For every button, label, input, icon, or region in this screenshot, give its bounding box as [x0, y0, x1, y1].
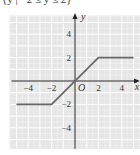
y-tick-label: −4 [61, 123, 71, 133]
y-axis-label: y [80, 11, 86, 22]
x-tick-label: −2 [47, 83, 57, 93]
origin-label: O [78, 82, 85, 93]
y-tick-label: −2 [61, 99, 71, 109]
y-tick-label: 2 [67, 53, 72, 63]
graph: xyO−4−22442−2−4 [0, 0, 140, 155]
x-axis-label: x [134, 81, 140, 92]
x-tick-label: 2 [96, 83, 101, 93]
x-tick-label: 4 [120, 83, 125, 93]
y-tick-label: 4 [67, 29, 72, 39]
x-tick-label: −4 [23, 83, 33, 93]
